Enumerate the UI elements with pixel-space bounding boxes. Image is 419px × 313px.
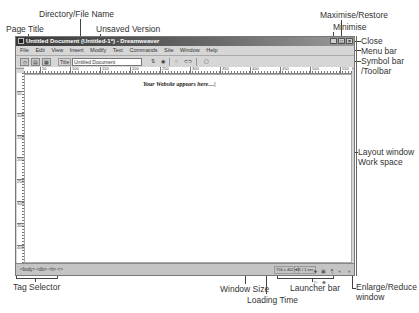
annotation-workspace: Work space — [358, 157, 403, 167]
annotation-close: Close — [361, 36, 383, 46]
design-view-icon[interactable]: ▦ — [42, 58, 51, 66]
annotation-maximise-restore: Maximise/Restore — [320, 10, 388, 20]
annotation-layout-window: Layout window — [358, 147, 414, 157]
annotation-loading-time: Loading Time — [247, 295, 298, 305]
file-management-icon[interactable]: ⇅ — [148, 58, 157, 66]
ruler-tick: 100 — [70, 67, 79, 73]
menu-commands[interactable]: Commands — [129, 47, 157, 53]
annotation-unsaved-version: Unsaved Version — [96, 24, 160, 34]
ruler-tick: 200 — [17, 157, 24, 162]
bracket-line — [57, 276, 58, 279]
annotation-enlarge-reduce: Enlarge/Reduce — [356, 282, 417, 292]
ruler-tick: 300 — [190, 67, 199, 73]
ruler-tick: 250 — [17, 179, 24, 184]
code-inspector-icon[interactable]: ◈ — [321, 279, 326, 285]
ruler-tick: 150 — [17, 135, 24, 140]
ruler-tick: 450 — [280, 67, 289, 73]
annotation-minimise: Minimise — [333, 22, 367, 32]
annotation-menu-bar: Menu bar — [361, 46, 397, 56]
menu-help[interactable]: Help — [206, 47, 217, 53]
window-title: Untitled Document (Untitled-1*) - Dreamw… — [26, 37, 159, 46]
tag-selector[interactable]: <body> <div> <h> <> — [20, 264, 63, 275]
ruler-tick: 400 — [250, 67, 259, 73]
annotation-tag-selector: Tag Selector — [13, 282, 60, 292]
ruler-tick: 400 — [17, 245, 24, 250]
ruler-tick: 50 — [40, 67, 46, 73]
annotation-enlarge-reduce-window: window — [356, 292, 384, 302]
behaviors-icon[interactable]: ◑ — [346, 268, 351, 274]
toolbar-divider — [169, 58, 170, 66]
preview-icon[interactable]: ◉ — [158, 58, 167, 66]
layout-workspace[interactable]: Your Website appears here....| — [24, 74, 352, 263]
maximise-restore-button[interactable]: □ — [338, 38, 345, 44]
ruler-tick: 350 — [17, 223, 24, 228]
annotation-symbol-bar: Symbol bar — [361, 56, 404, 66]
annotation-page-title: Page Title — [6, 24, 44, 34]
split-view-icon[interactable]: ▤ — [31, 58, 40, 66]
code-view-icon[interactable]: ◇ — [20, 58, 29, 66]
workspace-placeholder-text: Your Website appears here....| — [143, 81, 216, 87]
menu-site[interactable]: Site — [164, 47, 173, 53]
bracket-line — [16, 278, 58, 279]
bracket-line — [16, 276, 17, 279]
annotation-window-size: Window Size — [220, 284, 269, 294]
window-right-edge-line — [356, 36, 357, 276]
refresh-icon[interactable]: ○ — [172, 58, 181, 66]
menu-bar: File Edit View Insert Modify Text Comman… — [16, 46, 354, 55]
reference-icon[interactable]: ⊂⊃ — [183, 58, 192, 66]
annotation-toolbar: /Toolbar — [361, 66, 391, 76]
view-options-icon[interactable]: ▢ — [202, 58, 211, 66]
menu-edit[interactable]: Edit — [35, 47, 44, 53]
ruler-tick: 350 — [220, 67, 229, 73]
title-label: Title — [58, 58, 71, 66]
title-bar[interactable]: Untitled Document (Untitled-1*) - Dreamw… — [16, 37, 354, 46]
menu-view[interactable]: View — [51, 47, 63, 53]
ruler-tick: 100 — [17, 113, 24, 118]
ruler-tick: 250 — [160, 67, 169, 73]
launcher-bar: ♣ ▣ ¶ ◐ ◑ ▷ ◈ — [313, 266, 354, 288]
ruler-tick: 300 — [17, 201, 24, 206]
history-icon[interactable]: ▷ — [313, 279, 318, 285]
menu-insert[interactable]: Insert — [70, 47, 84, 53]
app-icon[interactable] — [18, 38, 24, 44]
minimise-button[interactable]: _ — [330, 38, 337, 44]
assets-icon[interactable]: ▣ — [321, 268, 326, 274]
ruler-tick: 550 — [340, 67, 349, 73]
close-button[interactable]: × — [346, 38, 353, 44]
ruler-tick: 500 — [310, 67, 319, 73]
toolbar-divider — [196, 58, 197, 66]
dreamweaver-window: Untitled Document (Untitled-1*) - Dreamw… — [15, 36, 355, 276]
html-styles-icon[interactable]: ¶ — [330, 268, 335, 274]
menu-modify[interactable]: Modify — [90, 47, 106, 53]
ruler-tick: 200 — [130, 67, 139, 73]
css-styles-icon[interactable]: ◐ — [338, 268, 343, 274]
menu-window[interactable]: Window — [180, 47, 200, 53]
annotation-directory-file-name: Directory/File Name — [39, 9, 114, 19]
menu-text[interactable]: Text — [113, 47, 123, 53]
menu-file[interactable]: File — [20, 47, 29, 53]
title-input[interactable]: Untitled Document — [72, 58, 142, 66]
ruler-tick: 150 — [100, 67, 109, 73]
ruler-tick: 50 — [17, 91, 24, 96]
status-bar: <body> <div> <h> <> 756 x 402 ▾ 1K / 1 s… — [16, 263, 354, 275]
site-icon[interactable]: ♣ — [313, 268, 318, 274]
horizontal-ruler: 50 100 150 200 250 300 350 400 450 500 5… — [24, 67, 352, 74]
